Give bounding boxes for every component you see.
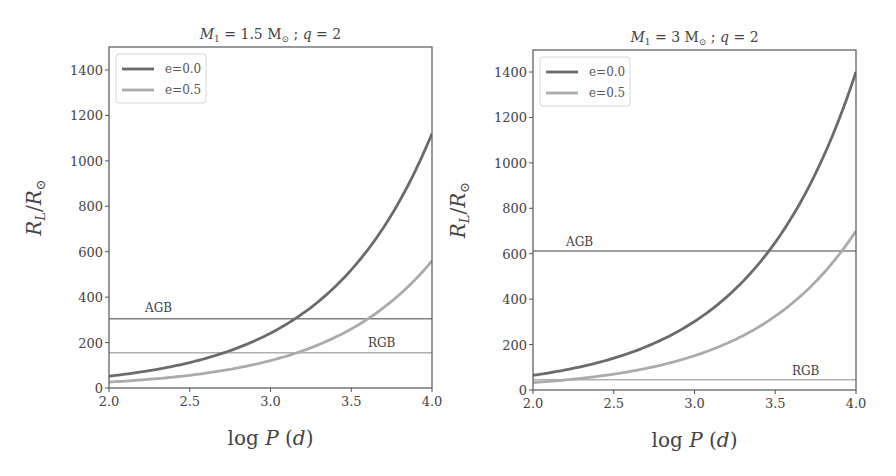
x-tick-label: 2.5 [179,394,200,409]
series-group [533,72,856,383]
annotation-agb: AGB [144,301,172,315]
x-tick-label: 3.5 [765,396,786,411]
series-line-e-0-0 [533,72,856,375]
y-tick-label: 600 [502,247,527,262]
reference-lines [533,251,856,380]
y-tick-label: 200 [502,338,527,353]
y-tick-label: 1200 [70,108,103,123]
legend-label: e=0.5 [165,83,201,97]
y-tick-label: 1000 [70,154,103,169]
x-tick-label: 2.5 [603,396,624,411]
y-tick-label: 400 [502,292,527,307]
y-tick-label: 1000 [494,156,527,171]
legend-label: e=0.0 [589,65,625,79]
legend-label: e=0.5 [589,86,625,100]
annotation-agb: AGB [565,235,593,249]
y-axis-label: RL/R⊙ [22,179,48,236]
figure: M1 = 1.5 M⊙ ; q = 2AGBRGB020040060080010… [0,0,896,476]
series-line-e-0-5 [109,261,432,382]
x-tick-label: 3.0 [260,394,281,409]
chart-title: M1 = 3 M⊙ ; q = 2 [629,29,758,47]
x-tick-label: 2.0 [99,394,120,409]
annotation-rgb: RGB [368,336,396,350]
y-tick-label: 800 [502,201,527,216]
chart-panel-1: M1 = 1.5 M⊙ ; q = 2AGBRGB020040060080010… [22,26,442,450]
y-tick-label: 1400 [70,63,103,78]
y-tick-label: 400 [78,290,103,305]
chart-panel-2: M1 = 3 M⊙ ; q = 2AGBRGB02004006008001000… [446,29,866,452]
x-tick-label: 4.0 [846,396,867,411]
x-tick-label: 2.0 [523,396,544,411]
legend-label: e=0.0 [165,62,201,76]
x-axis-label: log P (d) [228,426,314,450]
x-axis-label: log P (d) [652,428,738,452]
y-tick-label: 800 [78,199,103,214]
annotation-rgb: RGB [792,364,820,378]
y-tick-label: 200 [78,336,103,351]
y-tick-label: 1200 [494,110,527,125]
series-line-e-0-5 [533,231,856,383]
legend: e=0.0e=0.5 [540,57,630,106]
x-tick-label: 3.5 [341,394,362,409]
chart-title: M1 = 1.5 M⊙ ; q = 2 [199,26,341,44]
x-tick-label: 4.0 [422,394,443,409]
y-tick-label: 1400 [494,65,527,80]
y-tick-label: 600 [78,245,103,260]
x-tick-label: 3.0 [684,396,705,411]
legend: e=0.0e=0.5 [116,54,206,103]
y-axis-label: RL/R⊙ [446,182,472,239]
